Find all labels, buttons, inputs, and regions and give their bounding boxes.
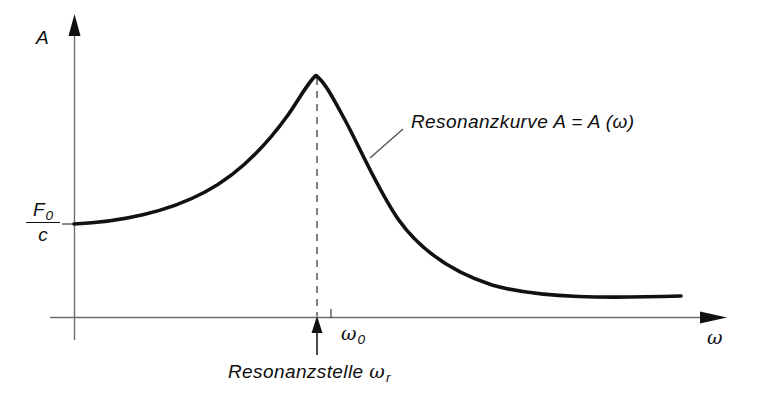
fraction-denominator: c xyxy=(26,224,60,245)
resonance-curve-path xyxy=(74,76,681,298)
annotation-leader-line xyxy=(370,129,403,158)
fraction-numerator-symbol: F xyxy=(33,199,45,220)
omega-r-symbol: ω xyxy=(369,360,385,382)
curve-annotation-label: Resonanzkurve A = A (ω) xyxy=(411,112,634,131)
omega0-symbol: ω xyxy=(341,322,357,344)
fraction-numerator: F0 xyxy=(26,200,60,221)
x-axis-tick-label-omega0: ω0 xyxy=(341,324,365,343)
y-axis-arrowhead xyxy=(69,14,81,36)
resonance-caption-text: Resonanzstelle xyxy=(228,361,369,382)
resonance-curve-figure: A F0 c ω ω0 Resonanzkurve A = A (ω) Reso… xyxy=(0,0,758,405)
fraction-numerator-subscript: 0 xyxy=(45,208,54,223)
x-axis-arrowhead xyxy=(700,312,727,324)
y-axis-value-label-f0-over-c: F0 c xyxy=(26,200,60,245)
resonance-arrow-head xyxy=(312,316,323,333)
omega-r-subscript: r xyxy=(385,370,391,385)
figure-canvas xyxy=(0,0,758,405)
x-axis-label: ω xyxy=(707,328,723,347)
resonance-point-caption: Resonanzstelle ωr xyxy=(228,362,391,381)
y-axis-label: A xyxy=(36,28,49,47)
omega0-subscript: 0 xyxy=(357,332,366,347)
fraction-bar xyxy=(26,222,60,224)
